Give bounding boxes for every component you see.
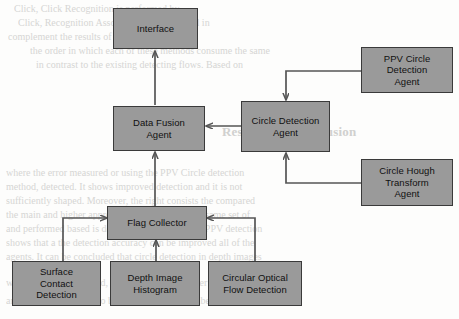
node-flag-collector[interactable]: Flag Collector: [107, 206, 207, 240]
node-circle-detection-agent-label: Circle DetectionAgent: [244, 115, 327, 138]
node-data-fusion-agent[interactable]: Data FusionAgent: [113, 106, 205, 151]
node-circle-hough-transform-agent-label: Circle HoughTransformAgent: [364, 165, 450, 200]
edge-hough-to-circle: [286, 153, 361, 183]
edge-optical-to-flag: [207, 218, 255, 262]
node-surface-contact-detection-label: SurfaceContactDetection: [15, 266, 98, 301]
node-ppv-circle-detection-agent[interactable]: PPV CircleDetectionAgent: [361, 47, 453, 93]
node-circular-optical-flow-detection-label: Circular OpticalFlow Detection: [211, 272, 299, 295]
node-circle-detection-agent[interactable]: Circle DetectionAgent: [241, 101, 330, 152]
node-surface-contact-detection[interactable]: SurfaceContactDetection: [12, 261, 101, 306]
figure-canvas: Click, Click Recognition is performed by…: [0, 0, 459, 319]
node-ppv-circle-detection-agent-label: PPV CircleDetectionAgent: [364, 53, 450, 88]
node-circle-hough-transform-agent[interactable]: Circle HoughTransformAgent: [361, 159, 453, 206]
edge-ppv-to-circle: [286, 71, 361, 100]
node-depth-image-histogram-label: Depth ImageHistogram: [113, 272, 197, 295]
node-depth-image-histogram[interactable]: Depth ImageHistogram: [110, 261, 200, 306]
node-data-fusion-agent-label: Data FusionAgent: [116, 117, 202, 140]
node-circular-optical-flow-detection[interactable]: Circular OpticalFlow Detection: [208, 261, 302, 306]
node-flag-collector-label: Flag Collector: [110, 217, 204, 229]
edge-surface-to-flag: [63, 218, 107, 262]
node-interface[interactable]: Interface: [113, 8, 198, 49]
node-interface-label: Interface: [116, 23, 195, 35]
